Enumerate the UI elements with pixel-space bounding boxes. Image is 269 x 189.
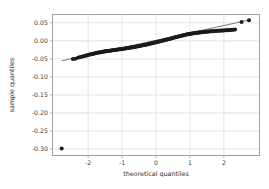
y-tick-label: -0.15 (32, 91, 48, 98)
y-tick-label: -0.20 (32, 109, 48, 116)
x-tick-label: -2 (85, 159, 91, 166)
x-tick-label: 0 (154, 159, 158, 166)
data-point (247, 18, 251, 22)
x-axis-label: theoretical quantiles (123, 170, 189, 178)
y-tick-label: -0.30 (32, 145, 48, 152)
y-tick-label: -0.10 (32, 73, 48, 80)
y-axis-label: sample quantiles (8, 57, 16, 112)
x-tick-label: 2 (222, 159, 226, 166)
plot-canvas: -2-10120.050.00-0.05-0.10-0.15-0.20-0.25… (0, 0, 269, 189)
data-point (240, 20, 244, 24)
x-tick-label: 1 (188, 159, 192, 166)
y-tick-label: -0.25 (32, 127, 48, 134)
y-tick-label: 0.00 (34, 37, 48, 44)
x-tick-label: -1 (119, 159, 125, 166)
y-tick-label: -0.05 (32, 55, 48, 62)
data-point (233, 28, 237, 32)
qq-plot-figure: -2-10120.050.00-0.05-0.10-0.15-0.20-0.25… (0, 0, 269, 189)
y-tick-label: 0.05 (34, 19, 48, 26)
data-point (60, 146, 64, 150)
